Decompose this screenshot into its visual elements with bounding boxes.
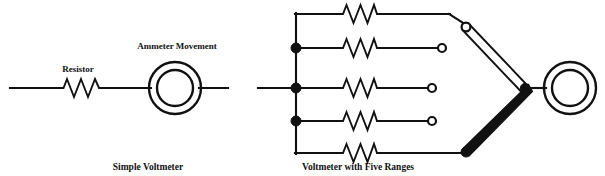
range-contact-3[interactable] bbox=[428, 84, 436, 92]
selected-range-contact[interactable] bbox=[462, 23, 471, 32]
resistor-label: Resistor bbox=[62, 64, 94, 74]
five-range-voltmeter-caption: Voltmeter with Five Ranges bbox=[302, 162, 414, 172]
bus-node-2 bbox=[291, 83, 301, 93]
circuit-diagram-canvas: Resistor Ammeter Movement Simple Voltmet… bbox=[0, 0, 605, 176]
bus-node-1 bbox=[291, 43, 301, 53]
ammeter-movement-label: Ammeter Movement bbox=[137, 41, 217, 51]
simple-voltmeter-caption: Simple Voltmeter bbox=[113, 162, 184, 172]
bus-node-3 bbox=[291, 116, 301, 126]
switch-common-contact bbox=[461, 147, 471, 157]
range-contact-2[interactable] bbox=[438, 44, 446, 52]
range-contact-4[interactable] bbox=[428, 117, 436, 125]
figure-root: Resistor Ammeter Movement Simple Voltmet… bbox=[0, 0, 605, 176]
